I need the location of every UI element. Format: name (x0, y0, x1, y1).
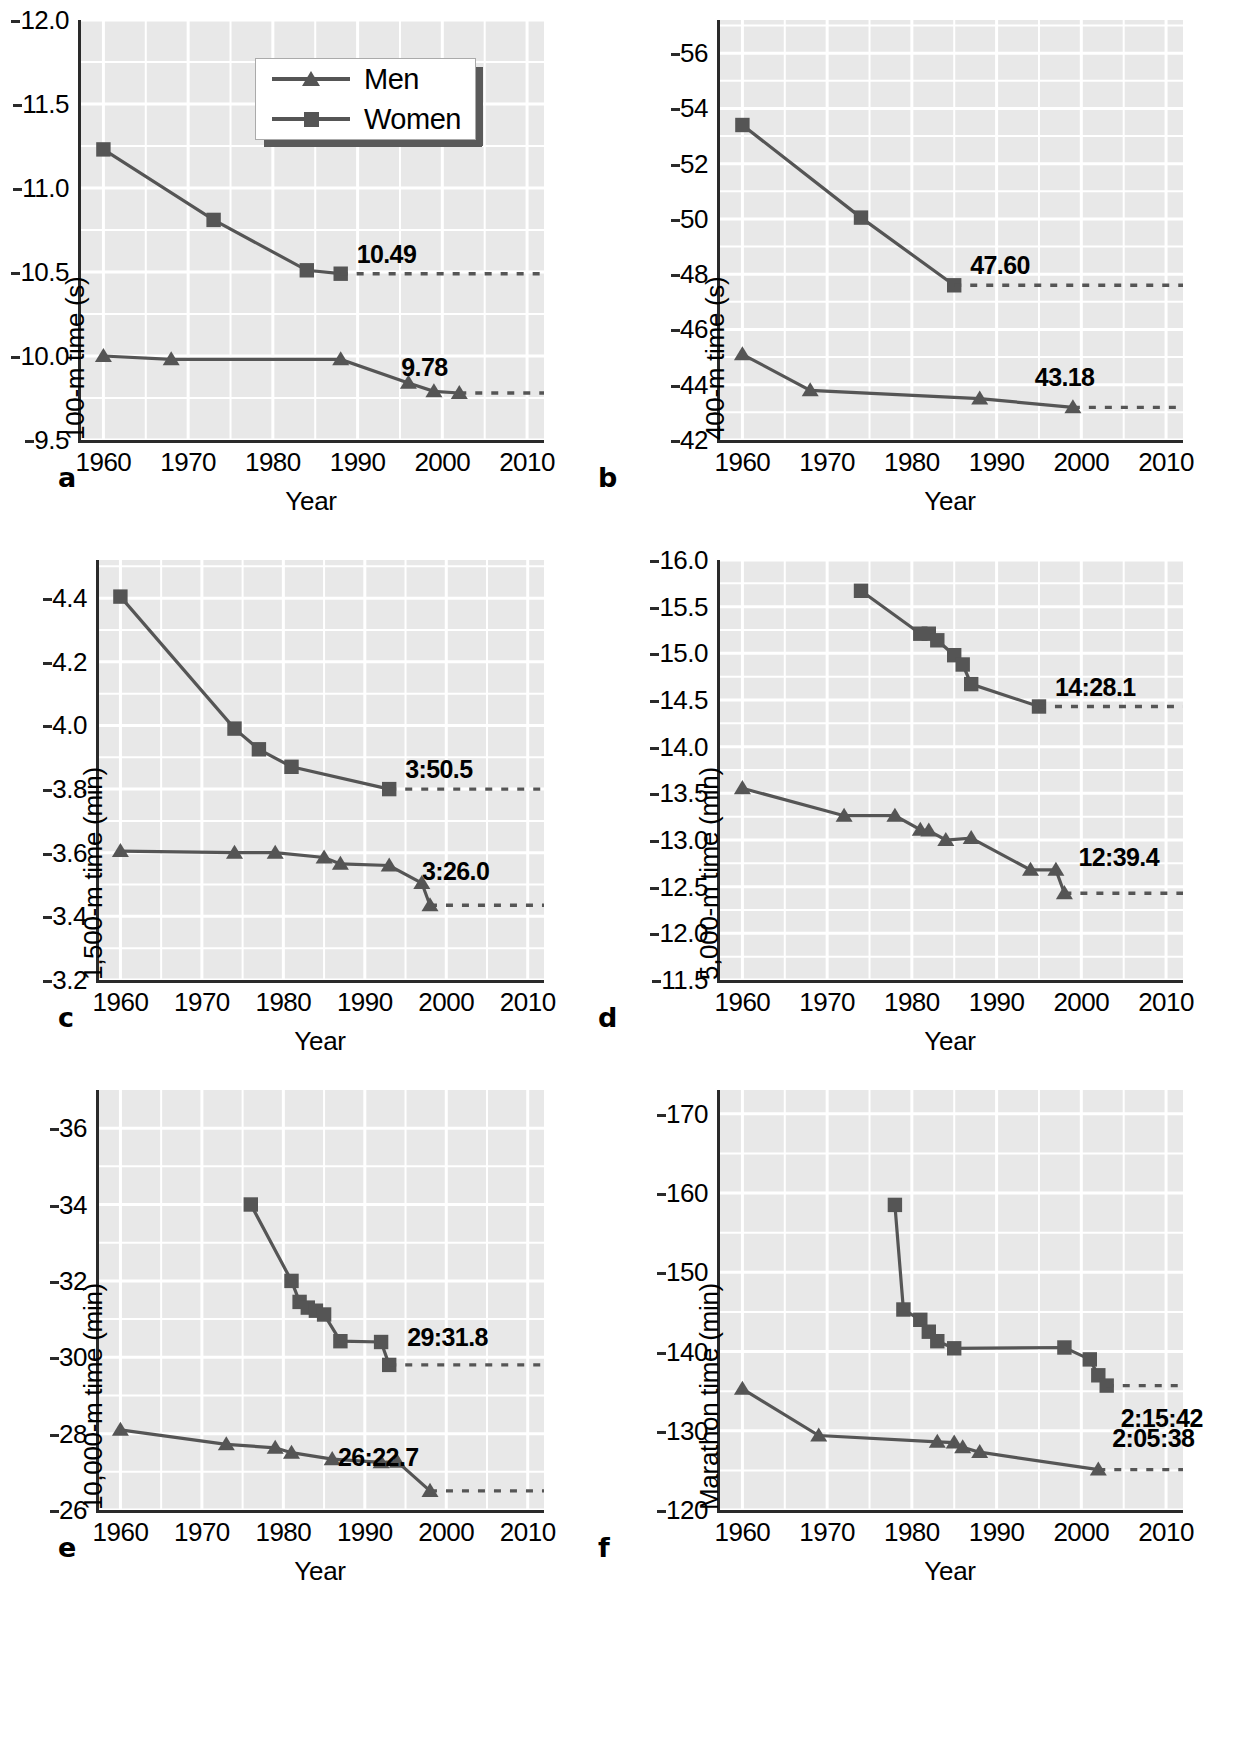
x-axis-line (717, 980, 1183, 983)
y-tick-mark (43, 662, 52, 665)
gridlines-e (96, 1090, 544, 1510)
x-axis-line (78, 440, 544, 443)
y-tick-mark (25, 440, 34, 443)
panel-label-e: e (58, 1532, 76, 1563)
marker-square (252, 742, 266, 756)
chart-legend: MenWomen (255, 58, 476, 140)
x-axis-line (717, 440, 1183, 443)
x-tick-label: 2010 (500, 980, 556, 1015)
marker-square (284, 1274, 298, 1288)
y-tick-mark (657, 1352, 666, 1355)
y-tick-mark (650, 933, 659, 936)
record-annotation-f-women: 2:15:42 (1121, 1404, 1203, 1433)
marker-triangle (734, 346, 751, 360)
y-tick-mark (43, 853, 52, 856)
x-tick-label: 1970 (174, 980, 230, 1015)
gridlines-c (96, 560, 544, 980)
x-axis-line (717, 1510, 1183, 1513)
record-annotation-d-men: 12:39.4 (1078, 843, 1159, 872)
panel-label-c: c (58, 1002, 74, 1033)
y-tick-mark (43, 980, 52, 983)
y-axis-title-a: 100-m time (s) (60, 277, 91, 440)
marker-square (1083, 1352, 1097, 1366)
series-women-e (244, 1197, 544, 1372)
x-axis-title-e: Year (96, 1556, 544, 1587)
x-tick-label: 2010 (1138, 980, 1194, 1015)
x-tick-label: 2010 (499, 440, 555, 475)
y-tick-mark (650, 793, 659, 796)
x-tick-label: 2010 (1138, 1510, 1194, 1545)
x-tick-label: 1980 (255, 980, 311, 1015)
y-tick-mark (650, 700, 659, 703)
gridlines-d (717, 560, 1183, 980)
x-tick-label: 2000 (418, 1510, 474, 1545)
y-tick-mark (50, 1281, 59, 1284)
y-tick-label: 11.5 (22, 91, 78, 117)
y-tick-mark (11, 20, 20, 23)
record-annotation-b-men: 43.18 (1035, 363, 1095, 392)
x-tick-label: 2010 (1138, 440, 1194, 475)
y-tick-label: 56 (680, 40, 717, 66)
marker-square (947, 1341, 961, 1355)
x-tick-label: 1980 (884, 980, 940, 1015)
marker-square (964, 677, 978, 691)
y-tick-mark (657, 1431, 666, 1434)
series-women-a (96, 142, 544, 281)
y-tick-mark (650, 747, 659, 750)
x-tick-label: 1990 (969, 1510, 1025, 1545)
y-tick-mark (50, 1357, 59, 1360)
series-women-b (735, 118, 1183, 293)
record-annotation-c-men: 3:26.0 (422, 857, 489, 886)
marker-square (113, 589, 127, 603)
x-tick-label: 1980 (884, 1510, 940, 1545)
marker-square (96, 142, 110, 156)
marker-square (333, 1334, 347, 1348)
plot-area-c: 3:26.03:50.53.23.43.63.84.04.24.41960197… (96, 560, 544, 980)
x-tick-label: 1960 (714, 440, 770, 475)
y-tick-mark (43, 916, 52, 919)
series-line (120, 851, 430, 905)
y-tick-mark (671, 329, 680, 332)
marker-square (227, 721, 241, 735)
legend-triangle-icon (272, 72, 350, 86)
y-tick-mark (50, 1434, 59, 1437)
y-axis-title-b: 400-m time (s) (700, 277, 731, 440)
y-tick-mark (43, 598, 52, 601)
x-axis-title-a: Year (78, 486, 544, 517)
y-tick-mark (50, 1510, 59, 1513)
y-tick-mark (11, 272, 20, 275)
y-tick-mark (671, 274, 680, 277)
plot-svg-c (96, 560, 544, 980)
y-tick-mark (671, 385, 680, 388)
x-tick-label: 1960 (93, 1510, 149, 1545)
y-tick-label: 12.0 (20, 7, 78, 33)
y-tick-label: 11.0 (22, 175, 78, 201)
x-tick-label: 1970 (799, 980, 855, 1015)
y-tick-label: 4.0 (52, 712, 96, 738)
y-tick-mark (671, 164, 680, 167)
record-annotation-a-men: 9.78 (401, 353, 447, 382)
y-tick-label: 14.5 (659, 687, 717, 713)
plot-area-f: 2:05:382:15:4212013014015016017019601970… (717, 1090, 1183, 1510)
y-tick-mark (11, 356, 20, 359)
marker-triangle (112, 1422, 129, 1436)
plot-svg-b (717, 20, 1183, 440)
x-tick-label: 2010 (500, 1510, 556, 1545)
plot-svg-d (717, 560, 1183, 980)
x-axis-line (96, 1510, 544, 1513)
y-tick-mark (650, 653, 659, 656)
y-tick-mark (657, 1510, 666, 1513)
y-tick-label: 4.2 (52, 649, 96, 675)
record-annotation-e-women: 29:31.8 (407, 1323, 488, 1352)
y-tick-label: 14.0 (659, 734, 717, 760)
marker-square (930, 1334, 944, 1348)
y-tick-label: 50 (680, 206, 717, 232)
y-tick-label: 150 (666, 1259, 717, 1285)
marker-square (888, 1198, 902, 1212)
x-axis-title-c: Year (96, 1026, 544, 1057)
legend-square-icon (272, 112, 350, 126)
x-tick-label: 1960 (93, 980, 149, 1015)
y-tick-mark (650, 840, 659, 843)
legend-marker (304, 112, 319, 127)
y-tick-label: 4.4 (52, 585, 96, 611)
